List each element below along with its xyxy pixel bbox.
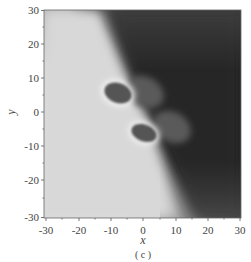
y-axis-ticks — [41, 11, 44, 218]
y-tick: -10 — [24, 140, 39, 152]
x-tick: -30 — [39, 224, 54, 236]
x-tick: 10 — [171, 224, 183, 236]
heatmap-area — [44, 10, 241, 218]
x-tick: -20 — [72, 224, 87, 236]
figure: 30 20 10 0 -10 -20 -30 -30 -20 -10 0 10 … — [0, 0, 251, 262]
y-tick: -30 — [24, 211, 39, 223]
y-axis-label: y — [4, 109, 18, 116]
x-tick: 20 — [203, 224, 215, 236]
y-tick-labels: 30 20 10 0 -10 -20 -30 — [24, 4, 39, 223]
y-tick: 0 — [34, 106, 40, 118]
panel-label: ( c ) — [135, 249, 151, 261]
y-tick: -20 — [24, 174, 39, 186]
x-tick: 30 — [235, 224, 247, 236]
x-axis-label: x — [139, 233, 146, 247]
x-axis-ticks — [46, 218, 240, 221]
y-tick: 20 — [28, 38, 40, 50]
y-tick: 30 — [28, 4, 40, 16]
x-tick: -10 — [104, 224, 119, 236]
y-tick: 10 — [28, 72, 40, 84]
